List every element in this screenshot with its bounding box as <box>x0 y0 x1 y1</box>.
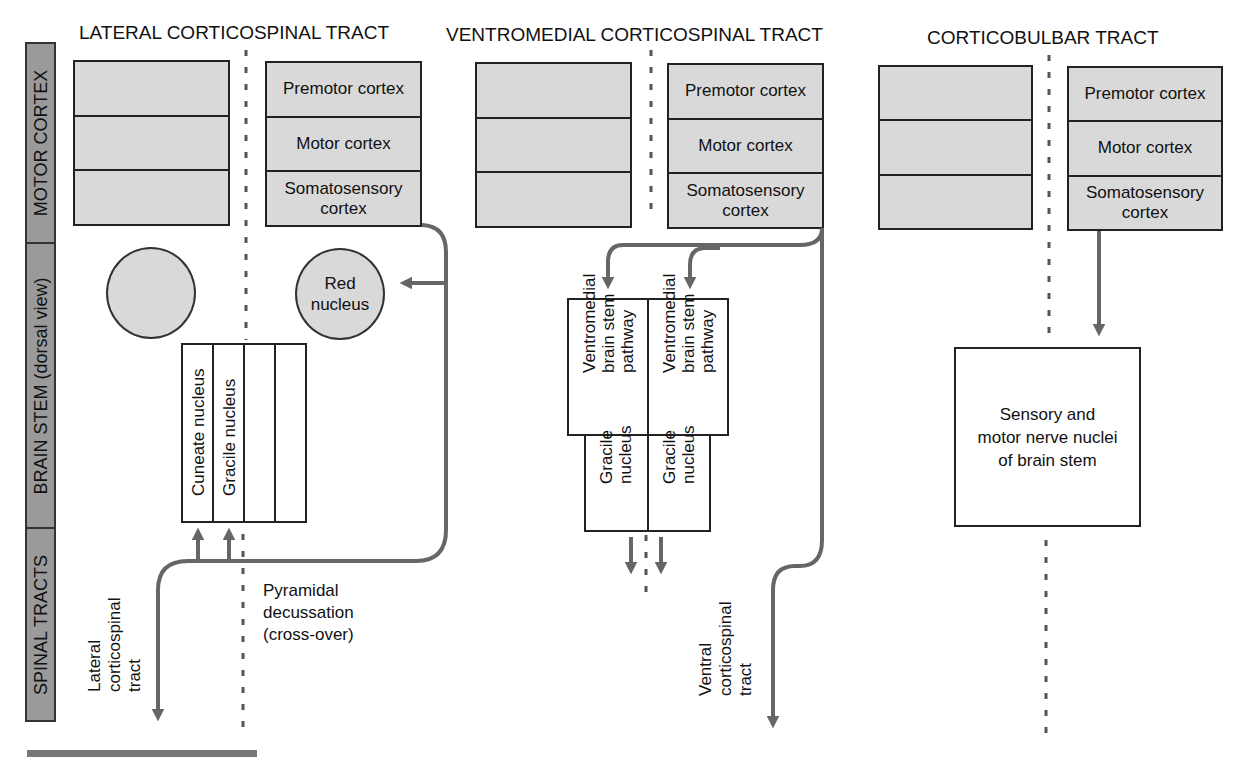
connector-overlay <box>0 0 1246 768</box>
ventromedial-pathway-arrow-1 <box>608 228 822 283</box>
ventral-corticospinal-arrow <box>773 228 822 722</box>
lateral-tract-arrow <box>158 225 446 715</box>
bottom-rule <box>27 750 257 757</box>
ventromedial-pathway-arrow-2 <box>690 248 720 283</box>
